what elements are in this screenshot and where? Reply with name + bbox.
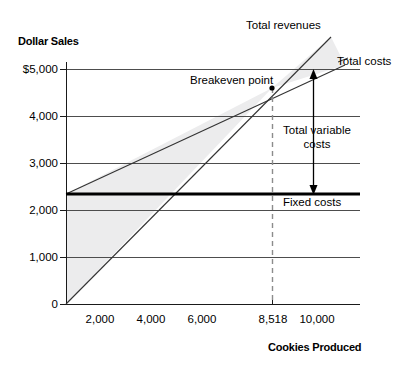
breakeven-point-label: Breakeven point bbox=[190, 74, 273, 87]
y-tick-label-1000: 1,000 bbox=[6, 251, 58, 264]
y-axis-title: Dollar Sales bbox=[18, 35, 79, 48]
y-tick-label-4000: 4,000 bbox=[6, 110, 58, 123]
breakeven-chart: Dollar Sales $5,000 4,000 3,000 2,000 1,… bbox=[0, 0, 413, 371]
x-axis-title: Cookies Produced bbox=[268, 341, 361, 354]
profit-shading-region bbox=[272, 37, 345, 88]
total-variable-costs-label-line2: costs bbox=[272, 138, 362, 151]
total-variable-costs-label-line1: Total variable bbox=[272, 124, 362, 137]
total-revenues-label: Total revenues bbox=[246, 19, 321, 32]
y-tick-label-2000: 2,000 bbox=[6, 204, 58, 217]
loss-shading-region bbox=[66, 88, 272, 304]
x-tick-label-10000: 10,000 bbox=[287, 313, 347, 326]
y-tick-label-5000: $5,000 bbox=[6, 63, 58, 76]
y-tick-label-3000: 3,000 bbox=[6, 157, 58, 170]
y-tick-label-0: 0 bbox=[6, 298, 58, 311]
fixed-costs-label: Fixed costs bbox=[283, 196, 341, 209]
x-tick-label-6000: 6,000 bbox=[172, 313, 232, 326]
total-costs-label: Total costs bbox=[337, 55, 391, 68]
